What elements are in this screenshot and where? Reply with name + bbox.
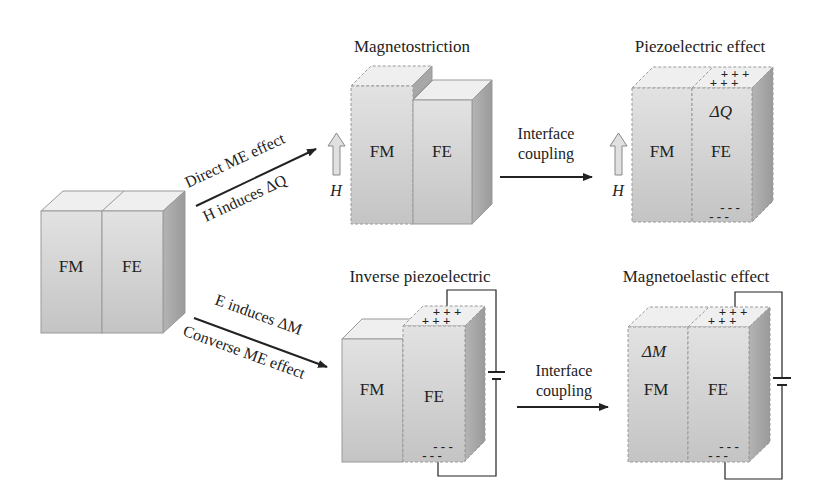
interface-label: Interface — [518, 125, 575, 142]
delta-q-label: ΔQ — [709, 102, 732, 121]
positive-charges: + + + — [708, 313, 737, 328]
coupling-label: coupling — [518, 145, 574, 163]
piezoelectric-box: + + + + + + ΔQ FM FE - - - - - - — [632, 66, 773, 224]
magnetoelastic-effect-title: Magnetoelastic effect — [623, 267, 770, 286]
h-label: H — [329, 182, 343, 199]
fm-label: FM — [650, 142, 675, 161]
converse-me-arrow: E induces ΔM Converse ME effect — [181, 291, 327, 382]
fe-label: FE — [711, 142, 731, 161]
fm-label: FM — [370, 142, 395, 161]
positive-charges: + + + — [422, 313, 451, 328]
magnetostriction-box: FM FE — [351, 66, 492, 224]
fm-label: FM — [360, 380, 385, 399]
me-effect-diagram: FM FE Direct ME effect H induces ΔQ H Ma… — [0, 0, 837, 503]
delta-m-label: ΔM — [641, 342, 667, 361]
interface-coupling-arrow-bottom: Interface coupling — [517, 362, 608, 407]
interface-label: Interface — [536, 362, 593, 379]
coupling-label: coupling — [536, 382, 592, 400]
h-label: H — [611, 182, 625, 199]
interface-coupling-arrow-top: Interface coupling — [500, 125, 592, 177]
initial-composite-box: FM FE — [41, 191, 185, 333]
h-field-arrow-icon: H — [610, 133, 627, 199]
fe-label: FE — [122, 257, 142, 276]
fe-label: FE — [424, 387, 444, 406]
negative-charges: - - - — [708, 448, 728, 463]
fm-label: FM — [59, 257, 84, 276]
fe-label: FE — [432, 142, 452, 161]
fe-label: FE — [708, 380, 728, 399]
negative-charges: - - - — [422, 448, 442, 463]
fm-label: FM — [644, 380, 669, 399]
negative-charges: - - - — [709, 209, 729, 224]
magnetoelastic-box: + + + + + + ΔM FM FE - - - - - - — [628, 292, 791, 479]
positive-charges: + + + — [710, 75, 739, 90]
magnetostriction-title: Magnetostriction — [354, 37, 471, 56]
inverse-piezoelectric-title: Inverse piezoelectric — [349, 267, 491, 286]
inverse-piezoelectric-box: + + + + + + FM FE - - - - - - — [342, 290, 505, 476]
h-field-arrow-icon: H — [328, 133, 345, 199]
piezoelectric-effect-title: Piezoelectric effect — [635, 37, 766, 56]
direct-me-arrow: Direct ME effect H induces ΔQ — [182, 129, 316, 224]
